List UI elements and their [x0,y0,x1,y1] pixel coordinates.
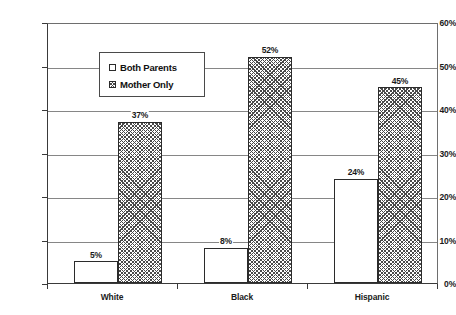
x-axis-category-label-hispanic: Hispanic [355,292,390,302]
legend-swatch-both-parents-icon [109,64,116,71]
bar-value-label-white-both-parents: 5% [89,250,103,260]
legend-swatch-mother-only-icon [109,81,116,88]
x-axis-tick-mark [307,284,308,289]
x-axis-tick-mark [177,284,178,289]
bar-value-label-white-mother-only: 37% [131,110,149,120]
bar-hispanic-mother-only [378,87,422,283]
bar-hispanic-both-parents [334,179,378,283]
x-axis-category-label-black: Black [231,292,253,302]
bar-value-label-black-both-parents: 8% [219,236,233,246]
bar-value-label-hispanic-mother-only: 45% [391,76,409,86]
x-axis-category-label-white: White [101,292,124,302]
x-axis-tick-mark [47,284,48,289]
bar-black-both-parents [204,248,248,283]
bar-value-label-black-mother-only: 52% [261,45,279,55]
bar-black-mother-only [248,57,292,283]
bar-white-mother-only [118,122,162,283]
legend-entry-mother-only: Mother Only [109,76,204,92]
legend-label-both-parents: Both Parents [120,62,177,73]
legend-entry-both-parents: Both Parents [109,59,204,75]
legend-label-mother-only: Mother Only [120,79,173,90]
legend: Both Parents Mother Only [99,52,205,97]
bar-white-both-parents [74,261,118,283]
bar-value-label-hispanic-both-parents: 24% [347,167,365,177]
plot-area: 5% 37% 8% 52% 24% 45% Both Parents Mothe… [47,23,438,284]
bar-chart: 60% 50% 40% 30% 20% 10% 0% 5% 37 [0,0,456,315]
x-axis-tick-mark [437,284,438,289]
